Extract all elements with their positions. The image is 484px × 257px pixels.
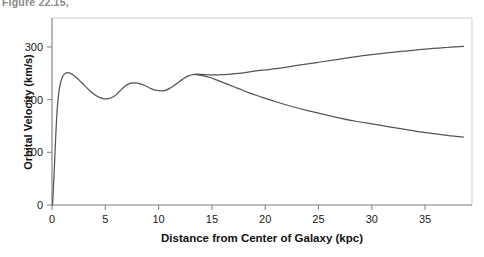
data-curves [53, 46, 464, 205]
galaxy-rotation-curve-figure: 0100200300 05101520253035 Orbital Veloci… [0, 0, 484, 257]
x-tick-label: 5 [102, 213, 108, 225]
y-tick-label: 0 [37, 199, 43, 211]
x-tick-label: 25 [312, 213, 324, 225]
x-tick-label: 30 [366, 213, 378, 225]
x-tick-label: 0 [49, 213, 55, 225]
x-tick-label: 20 [259, 213, 271, 225]
y-axis-title: Orbital Velocity (km/s) [22, 32, 34, 192]
plot-frame [52, 18, 472, 205]
curve-keplerian-predicted-curve [195, 74, 464, 137]
x-tick-label: 10 [152, 213, 164, 225]
x-axis-ticks: 05101520253035 [49, 205, 431, 225]
curve-observed-rotation-curve [53, 46, 464, 205]
x-tick-label: 35 [419, 213, 431, 225]
x-tick-label: 15 [206, 213, 218, 225]
x-axis-title: Distance from Center of Galaxy (kpc) [52, 232, 472, 244]
rotation-curve-plot: 0100200300 05101520253035 [0, 0, 484, 257]
